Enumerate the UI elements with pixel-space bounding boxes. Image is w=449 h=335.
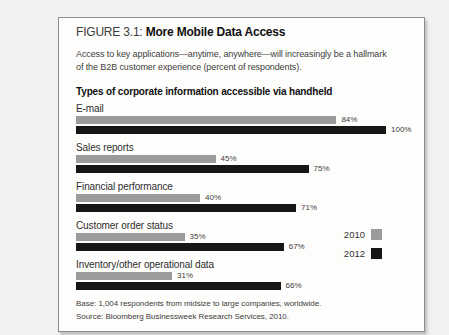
chart-row: Financial performance40%71% bbox=[76, 181, 408, 212]
bar-value-label: 75% bbox=[314, 165, 330, 173]
legend-entry-2012: 2012 bbox=[344, 247, 382, 259]
bar-line-2010: 45% bbox=[76, 155, 408, 163]
figure-box: FIGURE 3.1: More Mobile Data Access Acce… bbox=[58, 17, 425, 332]
bar-2010 bbox=[76, 272, 172, 280]
source-note: Source: Bloomberg Businessweek Research … bbox=[76, 311, 408, 324]
legend-swatch-2012 bbox=[371, 248, 382, 259]
bar-value-label: 67% bbox=[289, 243, 305, 251]
figure-subtitle: Access to key applications—anytime, anyw… bbox=[76, 48, 408, 74]
bar-line-2012: 71% bbox=[76, 204, 408, 212]
bar-2010 bbox=[76, 233, 185, 241]
bar-line-2010: 40% bbox=[76, 194, 408, 202]
bar-2010 bbox=[76, 116, 336, 124]
category-label: Sales reports bbox=[76, 142, 408, 153]
chart-legend: 20102012 bbox=[344, 228, 382, 266]
bar-line-2010: 31% bbox=[76, 272, 408, 280]
figure-title: FIGURE 3.1: More Mobile Data Access bbox=[76, 25, 408, 39]
bar-value-label: 40% bbox=[205, 194, 221, 202]
figure-title-text: More Mobile Data Access bbox=[146, 25, 286, 39]
category-label: Financial performance bbox=[76, 181, 408, 192]
bar-value-label: 31% bbox=[177, 272, 193, 280]
bar-value-label: 66% bbox=[286, 282, 302, 290]
bar-value-label: 45% bbox=[221, 155, 237, 163]
bar-line-2012: 66% bbox=[76, 282, 408, 290]
chart-row: E-mail84%100% bbox=[76, 103, 408, 134]
figure-subtitle-line-2: of the B2B customer experience (percent … bbox=[76, 61, 408, 74]
legend-swatch-2010 bbox=[371, 229, 382, 240]
bar-value-label: 100% bbox=[391, 126, 411, 134]
bar-2010 bbox=[76, 155, 216, 163]
bar-line-2012: 100% bbox=[76, 126, 408, 134]
category-label: E-mail bbox=[76, 103, 408, 114]
bar-value-label: 84% bbox=[341, 116, 357, 124]
bar-2012 bbox=[76, 282, 281, 290]
bar-2010 bbox=[76, 194, 200, 202]
bar-2012 bbox=[76, 204, 296, 212]
chart-row: Sales reports45%75% bbox=[76, 142, 408, 173]
bar-line-2012: 75% bbox=[76, 165, 408, 173]
figure-subtitle-line-1: Access to key applications—anytime, anyw… bbox=[76, 48, 408, 61]
legend-label: 2012 bbox=[344, 248, 365, 259]
figure-number-label: FIGURE 3.1: bbox=[76, 25, 142, 39]
bar-2012 bbox=[76, 243, 284, 251]
bar-value-label: 71% bbox=[301, 204, 317, 212]
bar-2012 bbox=[76, 165, 309, 173]
chart-heading: Types of corporate information accessibl… bbox=[76, 86, 408, 98]
bar-line-2010: 84% bbox=[76, 116, 408, 124]
legend-label: 2010 bbox=[344, 229, 365, 240]
legend-entry-2010: 2010 bbox=[344, 228, 382, 240]
bar-2012 bbox=[76, 126, 386, 134]
base-note: Base: 1,004 respondents from midsize to … bbox=[76, 298, 408, 311]
bar-value-label: 35% bbox=[190, 233, 206, 241]
